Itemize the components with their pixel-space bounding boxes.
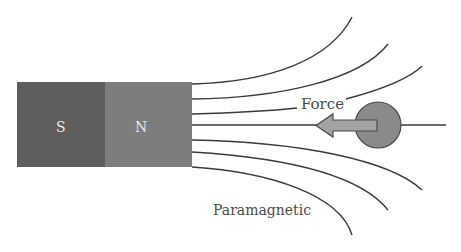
force-label: Force — [301, 95, 344, 113]
magnet-north-pole — [105, 82, 192, 167]
field-line-3b — [346, 66, 422, 99]
material-label: Paramagnetic — [213, 202, 311, 218]
field-line-1 — [192, 17, 352, 84]
north-pole-label: N — [135, 119, 147, 135]
field-line-7 — [192, 167, 352, 235]
field-line-3a — [192, 108, 297, 114]
field-line-5 — [192, 140, 422, 190]
field-line-2 — [192, 44, 388, 99]
south-pole-label: S — [56, 119, 66, 135]
